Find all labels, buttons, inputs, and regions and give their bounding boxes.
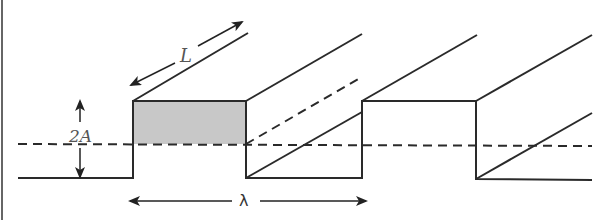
wavelength-label: λ bbox=[239, 191, 248, 210]
length-label: L bbox=[179, 45, 192, 66]
square-wave-profile bbox=[18, 101, 592, 180]
mean-level-dashed-line bbox=[18, 144, 592, 146]
shaded-crest-region bbox=[133, 101, 246, 144]
mean-level-depth-dashed-line bbox=[246, 77, 362, 144]
amplitude-label: 2A bbox=[68, 126, 92, 146]
corrugated-surface-diagram: L 2A λ bbox=[0, 0, 604, 220]
